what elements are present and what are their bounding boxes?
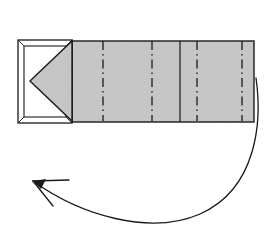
paper-strip: [72, 41, 254, 122]
origami-diagram: [0, 0, 271, 243]
diagram-canvas: [0, 0, 271, 243]
paper-texture: [72, 41, 254, 122]
